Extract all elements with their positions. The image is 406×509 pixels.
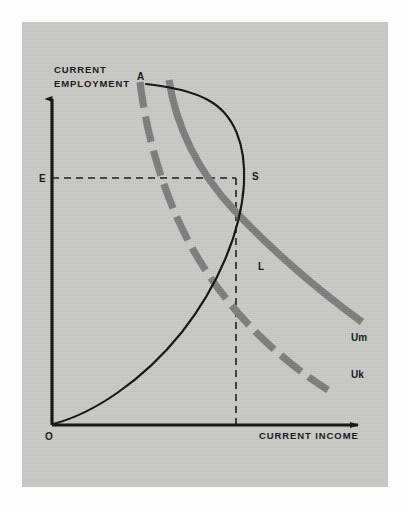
point-label-l: L [258, 261, 264, 272]
guide-lines-group [52, 178, 236, 425]
y-axis-title-line1: CURRENT [54, 64, 107, 75]
curve-label-uk: Uk [351, 369, 364, 380]
chart-canvas: CURRENT EMPLOYMENT CURRENT INCOME O E A … [22, 22, 388, 487]
indifference-curve-um [169, 80, 362, 322]
figure-root: CURRENT EMPLOYMENT CURRENT INCOME O E A … [0, 0, 406, 509]
diagram-panel: CURRENT EMPLOYMENT CURRENT INCOME O E A … [22, 22, 388, 487]
curve-label-um: Um [351, 332, 367, 343]
point-label-s: S [252, 171, 259, 182]
y-axis-title-line2: EMPLOYMENT [54, 78, 130, 89]
curve-start-label-a: A [137, 71, 144, 82]
origin-label: O [45, 431, 53, 442]
x-axis-title: CURRENT INCOME [259, 430, 359, 441]
employment-level-label: E [39, 173, 46, 184]
